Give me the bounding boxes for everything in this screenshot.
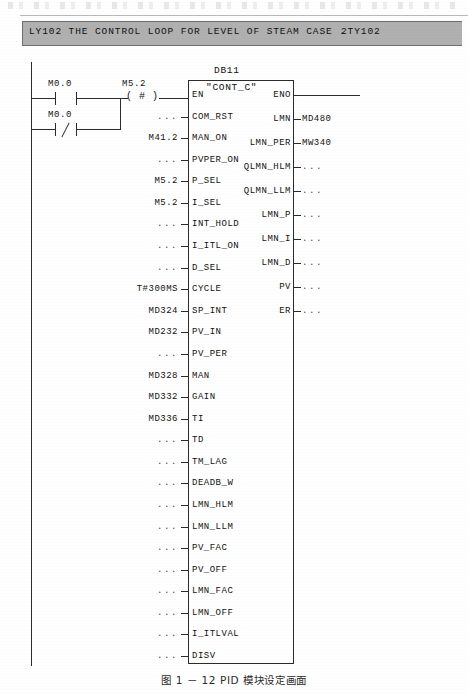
output-pin-value[interactable]: ... bbox=[302, 186, 323, 196]
output-pin-value[interactable]: MW340 bbox=[302, 138, 332, 148]
input-pin-name: LMN_OFF bbox=[192, 608, 233, 618]
input-pin-name: CYCLE bbox=[192, 284, 222, 294]
input-pin-name: LMN_LLM bbox=[192, 522, 233, 532]
input-pin-value[interactable]: ... bbox=[157, 651, 178, 661]
input-pin-stub bbox=[181, 505, 188, 506]
input-pin-value[interactable]: ... bbox=[157, 263, 178, 273]
input-pin-value[interactable]: MD336 bbox=[148, 414, 178, 424]
rung-wire-b-right bbox=[77, 129, 121, 130]
input-pin-value[interactable]: MD324 bbox=[148, 306, 178, 316]
input-pin-value[interactable]: M41.2 bbox=[148, 133, 178, 143]
rung-wire-b-left bbox=[31, 129, 55, 130]
input-pin-value[interactable]: MD328 bbox=[148, 371, 178, 381]
output-pin-value[interactable]: ... bbox=[302, 210, 323, 220]
output-pin-value[interactable]: ... bbox=[302, 234, 323, 244]
input-pin-value[interactable]: MD332 bbox=[148, 392, 178, 402]
input-pin-name: PVPER_ON bbox=[192, 155, 239, 165]
ladder-network: M0.0 M0.0 M5.2 ( # ) DB11 "CONT_C" ENCOM… bbox=[0, 0, 468, 693]
input-pin-name: DEADB_W bbox=[192, 478, 233, 488]
figure-caption: 图 1 － 12 PID 模块设定画面 bbox=[0, 672, 468, 687]
input-pin-name: EN bbox=[192, 90, 204, 100]
input-pin-value[interactable]: ... bbox=[157, 565, 178, 575]
contact-label-2: M0.0 bbox=[48, 110, 72, 120]
input-pin-stub bbox=[181, 138, 188, 139]
output-pin-value[interactable]: MD480 bbox=[302, 114, 332, 124]
input-pin-stub bbox=[181, 117, 188, 118]
input-pin-name: TD bbox=[192, 435, 204, 445]
output-pin-stub bbox=[294, 215, 301, 216]
input-pin-stub bbox=[181, 181, 188, 182]
input-pin-stub bbox=[181, 268, 188, 269]
rung-wire-a-left bbox=[31, 98, 55, 99]
output-pin-stub bbox=[294, 263, 301, 264]
input-pin-stub bbox=[181, 483, 188, 484]
output-pin-name: QLMN_HLM bbox=[244, 162, 291, 172]
input-pin-stub bbox=[181, 376, 188, 377]
input-pin-value[interactable]: M5.2 bbox=[154, 176, 178, 186]
input-pin-value[interactable]: ... bbox=[157, 629, 178, 639]
input-pin-value[interactable]: ... bbox=[157, 586, 178, 596]
output-pin-name: ENO bbox=[273, 90, 291, 100]
contact-normally-closed-icon[interactable] bbox=[55, 123, 77, 136]
input-pin-stub bbox=[181, 332, 188, 333]
output-pin-value[interactable]: ... bbox=[302, 306, 323, 316]
input-pin-value[interactable]: ... bbox=[157, 349, 178, 359]
input-pin-value[interactable]: ... bbox=[157, 608, 178, 618]
input-pin-stub bbox=[181, 311, 188, 312]
coil-midline-output-icon[interactable]: ( # ) bbox=[126, 91, 159, 102]
input-pin-stub bbox=[181, 203, 188, 204]
input-pin-value[interactable]: ... bbox=[157, 155, 178, 165]
coil-label: M5.2 bbox=[122, 79, 146, 89]
input-pin-name: LMN_FAC bbox=[192, 586, 233, 596]
rung-wire-a-right bbox=[77, 98, 121, 99]
input-pin-value[interactable]: M5.2 bbox=[154, 198, 178, 208]
input-pin-value[interactable]: ... bbox=[157, 241, 178, 251]
contact-bar-left bbox=[55, 92, 56, 105]
coil-wire-right bbox=[159, 98, 188, 99]
contact-label-1: M0.0 bbox=[48, 79, 72, 89]
input-pin-name: P_SEL bbox=[192, 176, 222, 186]
contact-slash bbox=[61, 123, 69, 138]
output-pin-value[interactable]: ... bbox=[302, 282, 323, 292]
output-pin-stub bbox=[294, 239, 301, 240]
input-pin-stub bbox=[181, 224, 188, 225]
input-pin-stub bbox=[181, 289, 188, 290]
input-pin-value[interactable]: ... bbox=[157, 543, 178, 553]
output-pin-stub bbox=[294, 311, 301, 312]
input-pin-stub bbox=[181, 440, 188, 441]
output-pin-name: PV bbox=[279, 282, 291, 292]
input-pin-name: PV_OFF bbox=[192, 565, 227, 575]
input-pin-name: MAN_ON bbox=[192, 133, 227, 143]
input-pin-stub bbox=[181, 634, 188, 635]
output-pin-stub bbox=[294, 119, 301, 120]
input-pin-stub bbox=[181, 462, 188, 463]
input-pin-stub bbox=[181, 354, 188, 355]
input-pin-value[interactable]: MD232 bbox=[148, 327, 178, 337]
input-pin-name: TI bbox=[192, 414, 204, 424]
input-pin-value[interactable]: T#300MS bbox=[137, 284, 178, 294]
output-pin-name: QLMN_LLM bbox=[244, 186, 291, 196]
input-pin-name: PV_PER bbox=[192, 349, 227, 359]
input-pin-value[interactable]: ... bbox=[157, 478, 178, 488]
input-pin-value[interactable]: ... bbox=[157, 457, 178, 467]
output-pin-name: LMN_I bbox=[261, 234, 291, 244]
input-pin-name: INT_HOLD bbox=[192, 219, 239, 229]
input-pin-stub bbox=[181, 527, 188, 528]
input-pin-stub bbox=[181, 160, 188, 161]
input-pin-value[interactable]: ... bbox=[157, 219, 178, 229]
output-pin-name: LMN_D bbox=[261, 258, 291, 268]
input-pin-stub bbox=[181, 397, 188, 398]
output-pin-stub bbox=[294, 287, 301, 288]
output-pin-value[interactable]: ... bbox=[302, 162, 323, 172]
contact-normally-open-icon[interactable] bbox=[55, 92, 77, 105]
input-pin-value[interactable]: ... bbox=[157, 522, 178, 532]
input-pin-value[interactable]: ... bbox=[157, 500, 178, 510]
input-pin-stub bbox=[181, 613, 188, 614]
output-pin-name: ER bbox=[279, 306, 291, 316]
input-pin-name: PV_FAC bbox=[192, 543, 227, 553]
input-pin-value[interactable]: ... bbox=[157, 435, 178, 445]
contact-bar-left bbox=[55, 123, 56, 136]
input-pin-value[interactable]: ... bbox=[157, 112, 178, 122]
output-pin-value[interactable]: ... bbox=[302, 258, 323, 268]
output-pin-name: LMN_P bbox=[261, 210, 291, 220]
